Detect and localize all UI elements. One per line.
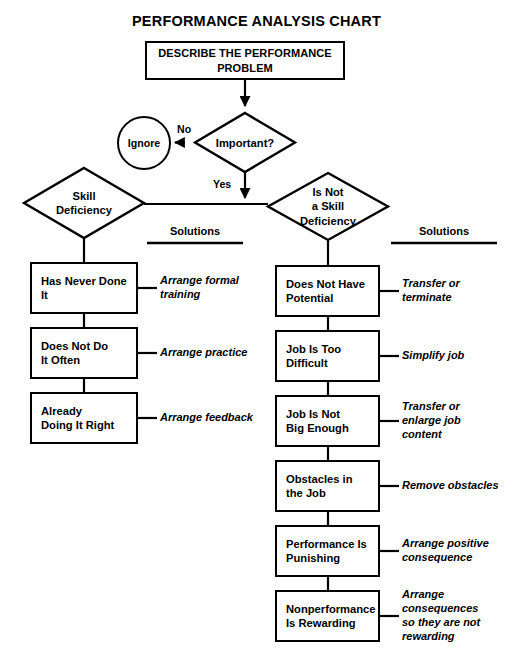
solution-text-not-skill-3: Remove obstacles: [402, 479, 513, 493]
solution-text-not-skill-4: Arrange positive consequence: [402, 537, 510, 565]
solutions-header-not-skill: Solutions: [391, 225, 497, 237]
page-title: PERFORMANCE ANALYSIS CHART: [0, 13, 513, 29]
solution-text-skill-2: Arrange feedback: [160, 411, 260, 425]
start-box: DESCRIBE THE PERFORMANCE PROBLEM: [145, 41, 345, 80]
solution-text-not-skill-1: Simplify job: [402, 349, 510, 363]
edge-label-no: No: [177, 123, 191, 135]
solution-text-not-skill-5: Arrange consequences so they are not rew…: [402, 588, 510, 643]
edge-label-yes: Yes: [213, 178, 231, 190]
solutions-header-skill: Solutions: [147, 225, 243, 237]
cause-box-not-skill-0: Does Not Have Potential: [275, 265, 380, 317]
cause-box-not-skill-2: Job Is Not Big Enough: [275, 395, 380, 447]
cause-box-not-skill-4: Performance Is Punishing: [275, 525, 380, 577]
decision-label-not-skill-deficiency: Is Not a Skill Deficiency: [278, 182, 378, 231]
cause-box-skill-0: Has Never Done It: [30, 262, 138, 314]
cause-box-skill-2: Already Doing It Right: [30, 392, 138, 444]
cause-box-not-skill-1: Job Is Too Difficult: [275, 330, 380, 382]
performance-analysis-chart: PERFORMANCE ANALYSIS CHART: [0, 0, 513, 660]
decision-label-important: Important?: [195, 133, 295, 153]
cause-box-not-skill-3: Obstacles in the Job: [275, 460, 380, 512]
cause-box-not-skill-5: Nonperformance Is Rewarding: [275, 590, 380, 642]
decision-label-skill-deficiency: Skill Deficiency: [34, 185, 134, 221]
solution-text-skill-0: Arrange formal training: [160, 274, 260, 302]
ignore-node: Ignore: [117, 116, 171, 170]
solution-text-skill-1: Arrange practice: [160, 346, 260, 360]
solution-text-not-skill-2: Transfer or enlarge job content: [402, 400, 510, 442]
solution-text-not-skill-0: Transfer or terminate: [402, 277, 510, 305]
cause-box-skill-1: Does Not Do It Often: [30, 327, 138, 379]
